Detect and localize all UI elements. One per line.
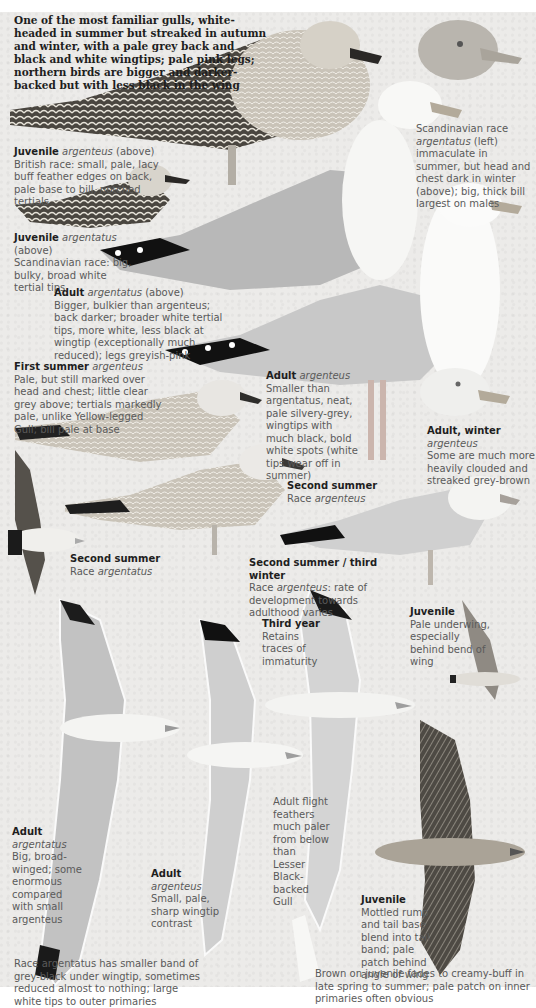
caption-heading: Adult — [12, 826, 42, 837]
caption-heading: Adult — [151, 868, 181, 879]
caption-race: argentatus — [12, 839, 67, 850]
caption-heading: Adult — [54, 287, 84, 298]
caption-heading: First summer — [14, 361, 89, 372]
caption-body: Adult flight feathers much paler from be… — [273, 796, 330, 907]
caption-heading: Juvenile — [14, 146, 59, 157]
caption-first-summer: First summer argenteus Pale, but still m… — [14, 361, 164, 436]
footnote-right: Brown on juvenile fades to creamy-buff i… — [315, 968, 530, 1006]
caption-race: argenteus — [62, 146, 113, 157]
caption-race: argentatus — [98, 566, 153, 577]
caption-body: Pale, but still marked over head and che… — [14, 374, 164, 437]
gull-head-adult-winter — [420, 368, 510, 416]
caption-heading: Second summer — [287, 480, 397, 493]
caption-heading: Adult — [266, 370, 296, 381]
caption-race: argentatus — [416, 136, 471, 147]
caption-suffix: (above) — [14, 245, 52, 256]
caption-body: Pale underwing, especially behind bend o… — [410, 619, 490, 668]
caption-prefix: Scandinavian race — [416, 123, 508, 134]
caption-suffix: (above) — [116, 146, 154, 157]
caption-prefix: Race — [287, 493, 312, 504]
caption-heading: Third year — [262, 618, 332, 631]
caption-second-summer-argentatus: Second summer Race argentatus — [70, 553, 170, 578]
caption-juvenile-underwing: Juvenile Pale underwing, especially behi… — [410, 606, 490, 669]
caption-race: argenteus — [92, 361, 143, 372]
intro-text: One of the most familiar gulls, white-he… — [14, 14, 269, 92]
caption-body: Bigger, bulkier than argenteus; back dar… — [54, 300, 224, 363]
caption-heading: Juvenile — [14, 232, 59, 243]
gull-head-winter — [418, 20, 522, 80]
caption-juvenile-argentatus: Juvenile argentatus (above) Scandinavian… — [14, 232, 139, 295]
caption-race: argenteus — [427, 438, 478, 449]
caption-body: Big, broad-winged; some enormous compare… — [12, 851, 84, 926]
caption-adult-argenteus-flight: Adult argenteus Small, pale, sharp wingt… — [151, 868, 231, 931]
footnote-left: Race argentatus has smaller band of grey… — [14, 958, 204, 1008]
caption-prefix: Race — [249, 582, 274, 593]
caption-heading: Juvenile — [410, 606, 490, 619]
caption-juvenile-argenteus: Juvenile argenteus (above) British race:… — [14, 146, 164, 209]
caption-flight-feathers: Adult flight feathers much paler from be… — [273, 796, 331, 909]
caption-race: argentatus — [62, 232, 117, 243]
caption-heading: Adult, winter — [427, 425, 501, 436]
caption-heading: Second summer — [70, 553, 170, 566]
caption-body: British race: small, pale, lacy buff fea… — [14, 159, 164, 209]
caption-body: Smaller than argentatus, neat, pale silv… — [266, 383, 358, 483]
caption-adult-argentatus: Adult argentatus (above) Bigger, bulkier… — [54, 287, 224, 362]
caption-race: argentatus — [87, 287, 142, 298]
caption-adult-winter: Adult, winter argenteus Some are much mo… — [427, 425, 535, 488]
caption-adult-argentatus-flight: Adult argentatus Big, broad-winged; some… — [12, 826, 84, 926]
caption-heading: Juvenile — [361, 894, 433, 907]
caption-body: Small, pale, sharp wingtip contrast — [151, 893, 231, 931]
caption-race: argenteus — [315, 493, 366, 504]
caption-second-summer-third-winter: Second summer / third winter Race argent… — [249, 557, 399, 620]
caption-heading: Second summer / third winter — [249, 557, 399, 582]
caption-race: argenteus — [277, 582, 328, 593]
caption-adult-argenteus: Adult argenteus Smaller than argentatus,… — [266, 370, 358, 483]
caption-race: argenteus — [151, 881, 202, 892]
caption-suffix: (above) — [145, 287, 183, 298]
caption-prefix: Race — [70, 566, 95, 577]
caption-body: Retains traces of immaturity — [262, 631, 317, 667]
caption-second-summer-argenteus: Second summer Race argenteus — [287, 480, 397, 505]
caption-scandinavian-head: Scandinavian race argentatus (left) imma… — [416, 123, 534, 211]
caption-body: Some are much more heavily clouded and s… — [427, 450, 535, 488]
caption-third-year: Third year Retains traces of immaturity — [262, 618, 332, 668]
caption-race: argenteus — [299, 370, 350, 381]
